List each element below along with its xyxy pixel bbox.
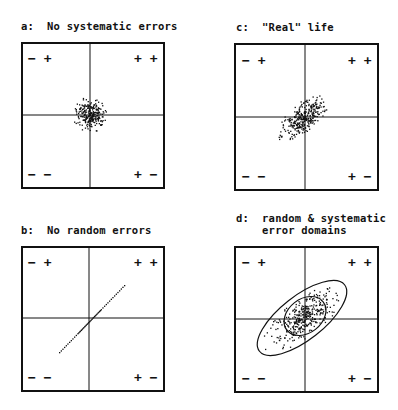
panel-c-quadrant-top-right: + +: [348, 54, 371, 67]
panel-a-quadrant-bottom-left: − −: [28, 168, 51, 181]
panel-b-quadrant-top-left: − +: [28, 256, 51, 269]
panel-b-quadrant-top-right: + +: [134, 256, 157, 269]
systematic-error-domain-ellipse: [246, 267, 358, 368]
panel-a-quadrant-top-left: − +: [28, 52, 51, 65]
diagram-canvas: [0, 0, 398, 410]
panel-d-quadrant-bottom-left: − −: [242, 372, 265, 385]
panel-a-quadrant-top-right: + +: [134, 52, 157, 65]
panel-d-quadrant-top-right: + +: [348, 256, 371, 269]
panel-a-quadrant-bottom-right: + −: [134, 168, 157, 181]
panel-b-quadrant-bottom-left: − −: [28, 371, 51, 384]
panel-c-quadrant-bottom-right: + −: [348, 170, 371, 183]
panel-d-quadrant-bottom-right: + −: [348, 372, 371, 385]
panel-c-quadrant-bottom-left: − −: [242, 170, 265, 183]
panel-c-scatter: [279, 95, 328, 140]
panel-c-quadrant-top-left: − +: [242, 54, 265, 67]
panel-b-scatter: [59, 285, 125, 353]
panel-d-quadrant-top-left: − +: [242, 256, 265, 269]
panel-b-quadrant-bottom-right: + −: [134, 371, 157, 384]
